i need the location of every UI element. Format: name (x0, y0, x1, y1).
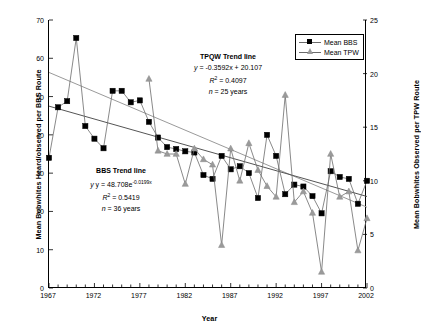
y-axis-left-ticks: 010203040506070 (22, 20, 44, 288)
x-axis-tick-label: 1977 (131, 292, 147, 299)
chart-legend: Mean BBSMean TPW (295, 34, 364, 60)
legend-square-icon (299, 38, 321, 46)
y-axis-right-title: Mean Bobwhites Observed per TPW Route (412, 55, 421, 255)
tpqw-trend-n: n = 25 years (168, 87, 288, 98)
tpqw-trend-rsquared: R2 = 0.4097 (168, 73, 288, 87)
x-axis-tick-label: 1972 (86, 292, 102, 299)
y-axis-left-tick-label: 0 (22, 285, 44, 292)
y-axis-left-tick-label: 50 (22, 93, 44, 100)
y-axis-left-tick-label: 60 (22, 55, 44, 62)
y-axis-left-tick-label: 20 (22, 208, 44, 215)
x-axis-tick-label: 1967 (40, 292, 56, 299)
x-axis-tick-label: 1987 (222, 292, 238, 299)
legend-item-label: Mean TPW (324, 48, 359, 57)
y-axis-left-tick-label: 70 (22, 17, 44, 24)
bbs-trend-heading: BBS Trend line (66, 166, 176, 177)
y-axis-left-tick-label: 30 (22, 170, 44, 177)
bbs-trend-n: n = 36 years (66, 204, 176, 215)
y-axis-right-ticks: 0510152025 (370, 20, 392, 288)
tpqw-trend-equation: y = -0.3592x + 20.107 (168, 63, 288, 74)
x-axis-tick-label: 2002 (358, 292, 374, 299)
legend-item-label: Mean BBS (324, 38, 357, 47)
y-axis-left-tick-label: 40 (22, 131, 44, 138)
legend-item[interactable]: Mean TPW (299, 47, 359, 57)
y-axis-right-tick-label: 25 (370, 17, 392, 24)
x-axis-tick-label: 1997 (313, 292, 329, 299)
x-axis-tick-label: 1982 (176, 292, 192, 299)
tpqw-trend-heading: TPQW Trend line (168, 52, 288, 63)
annotation-tpqw-trend: TPQW Trend line y = -0.3592x + 20.107 R2… (168, 52, 288, 97)
x-axis-tick-label: 1992 (267, 292, 283, 299)
legend-triangle-icon (299, 48, 321, 56)
y-axis-right-tick-label: 20 (370, 70, 392, 77)
y-axis-right-tick-label: 10 (370, 177, 392, 184)
y-axis-right-tick-label: 0 (370, 285, 392, 292)
bbs-trend-equation: y y = 48.708e-0.0199x (66, 177, 176, 191)
x-axis-title: Year (0, 314, 419, 323)
bbs-trend-rsquared: R2 = 0.5419 (66, 190, 176, 204)
legend-item[interactable]: Mean BBS (299, 37, 359, 47)
annotation-bbs-trend: BBS Trend line y y = 48.708e-0.0199x R2 … (66, 166, 176, 215)
y-axis-right-tick-label: 5 (370, 231, 392, 238)
y-axis-right-tick-label: 15 (370, 124, 392, 131)
y-axis-left-tick-label: 10 (22, 246, 44, 253)
